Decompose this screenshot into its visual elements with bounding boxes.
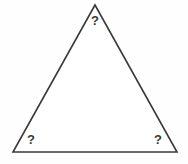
angle-label-bottom-left: ? xyxy=(27,133,35,146)
angle-label-bottom-right: ? xyxy=(154,133,162,146)
triangle-diagram: ? ? ? xyxy=(0,0,188,164)
angle-label-apex: ? xyxy=(91,14,99,27)
